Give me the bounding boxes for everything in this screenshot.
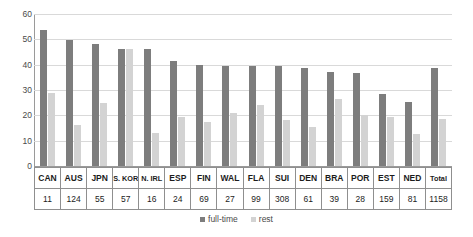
table-cell-value: 69 [191, 189, 217, 209]
table-cell-label: FLA [244, 168, 270, 188]
table-cell-label: NED [400, 168, 426, 188]
bar-group [269, 14, 295, 166]
y-tick-label: 20 [4, 111, 32, 120]
table-cell-label: AUS [61, 168, 87, 188]
table-cell-label: WAL [217, 168, 243, 188]
table-cell-value: 61 [296, 189, 322, 209]
bar-full-time [353, 73, 360, 166]
bar-group [34, 14, 60, 166]
bar-group [191, 14, 217, 166]
table-cell-label: CAN [35, 168, 61, 188]
bar-rest [152, 133, 159, 166]
y-tick-label: 10 [4, 136, 32, 145]
bar-full-time [327, 72, 334, 166]
table-cell-label: Total [426, 168, 451, 188]
bar-group [165, 14, 191, 166]
table-cell-value: 308 [270, 189, 296, 209]
legend-item[interactable]: full-time [200, 215, 238, 224]
bar-rest [309, 127, 316, 166]
bar-rest [126, 49, 133, 166]
bar-group [112, 14, 138, 166]
bar-rest [100, 103, 107, 166]
bar-full-time [379, 94, 386, 166]
table-row: 1112455571624692799308613928159811158 [35, 189, 451, 209]
bar-rest [257, 105, 264, 166]
bar-group [86, 14, 112, 166]
bar-full-time [275, 66, 282, 166]
y-tick-label: 50 [4, 35, 32, 44]
table-cell-label: S. KOR [113, 168, 139, 188]
table-cell-value: 57 [113, 189, 139, 209]
table-cell-label: POR [348, 168, 374, 188]
bar-full-time [118, 49, 125, 166]
table-cell-value: 24 [165, 189, 191, 209]
table-cell-label: N. IRL [139, 168, 165, 188]
bar-group [243, 14, 269, 166]
legend-swatch-icon [251, 217, 256, 222]
bar-rest [439, 119, 446, 166]
bar-group [217, 14, 243, 166]
bars-layer [34, 14, 452, 166]
table-cell-value: 28 [348, 189, 374, 209]
table-cell-value: 11 [35, 189, 61, 209]
table-cell-value: 81 [400, 189, 426, 209]
bar-rest [74, 125, 81, 166]
bar-rest [413, 134, 420, 166]
bar-group [139, 14, 165, 166]
bar-full-time [196, 65, 203, 166]
bar-full-time [40, 30, 47, 166]
legend-label: rest [259, 215, 273, 224]
bar-group [295, 14, 321, 166]
bar-group [321, 14, 347, 166]
table-cell-label: BRA [322, 168, 348, 188]
table-cell-value: 55 [87, 189, 113, 209]
chart-legend: full-timerest [0, 215, 473, 224]
y-tick-label: 40 [4, 60, 32, 69]
table-cell-label: EST [374, 168, 400, 188]
bar-full-time [92, 44, 99, 166]
table-cell-value: 159 [374, 189, 400, 209]
bar-rest [283, 120, 290, 166]
bar-full-time [301, 68, 308, 166]
legend-label: full-time [208, 215, 238, 224]
y-tick-label: 60 [4, 10, 32, 19]
plot-area [34, 14, 452, 166]
bar-full-time [222, 66, 229, 166]
bar-rest [230, 113, 237, 166]
table-cell-label: JPN [87, 168, 113, 188]
bar-full-time [405, 102, 412, 166]
bar-group [400, 14, 426, 166]
table-cell-label: ESP [165, 168, 191, 188]
bar-full-time [144, 49, 151, 166]
legend-swatch-icon [200, 217, 205, 222]
bar-group [60, 14, 86, 166]
table-row: CANAUSJPNS. KORN. IRLESPFINWALFLASUIDENB… [35, 168, 451, 189]
table-cell-label: DEN [296, 168, 322, 188]
table-cell-value: 124 [61, 189, 87, 209]
table-cell-value: 16 [139, 189, 165, 209]
bar-rest [361, 115, 368, 166]
bar-group [426, 14, 452, 166]
table-cell-value: 27 [217, 189, 243, 209]
bar-rest [387, 117, 394, 166]
table-cell-label: FIN [191, 168, 217, 188]
bar-rest [48, 93, 55, 166]
legend-item[interactable]: rest [251, 215, 273, 224]
bar-chart: 6050403020100 CANAUSJPNS. KORN. IRLESPFI… [0, 0, 473, 237]
bar-group [348, 14, 374, 166]
table-cell-value: 1158 [426, 189, 451, 209]
bar-full-time [431, 68, 438, 166]
y-tick-label: 0 [4, 162, 32, 171]
bar-full-time [170, 61, 177, 166]
table-cell-label: SUI [270, 168, 296, 188]
table-cell-value: 99 [244, 189, 270, 209]
bar-full-time [249, 66, 256, 166]
bar-rest [335, 99, 342, 166]
y-tick-label: 30 [4, 86, 32, 95]
table-cell-value: 39 [322, 189, 348, 209]
y-axis-ticks: 6050403020100 [0, 14, 32, 167]
data-table: CANAUSJPNS. KORN. IRLESPFINWALFLASUIDENB… [34, 167, 452, 210]
bar-group [374, 14, 400, 166]
bar-full-time [66, 40, 73, 166]
bar-rest [204, 122, 211, 166]
